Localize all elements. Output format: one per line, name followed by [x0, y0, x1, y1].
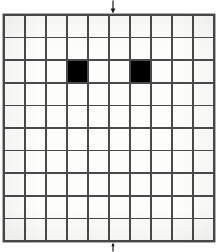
cell-grid — [3, 14, 215, 242]
grid-cell — [68, 151, 87, 172]
grid-cell — [194, 151, 213, 172]
grid-cell — [173, 151, 192, 172]
grid-cell — [26, 219, 45, 240]
grid-cell — [173, 84, 192, 105]
grid-cell — [89, 151, 108, 172]
grid-cell — [152, 197, 171, 218]
grid-cell — [89, 106, 108, 127]
grid-cell — [26, 84, 45, 105]
grid-cell — [89, 16, 108, 37]
grid-cell — [173, 174, 192, 195]
grid-cell — [68, 84, 87, 105]
grid-cell — [5, 106, 24, 127]
grid-cell — [152, 129, 171, 150]
grid-cell — [26, 106, 45, 127]
grid-cell — [26, 61, 45, 82]
grid-cell — [89, 38, 108, 59]
grid-cell — [47, 151, 66, 172]
grid-cell — [5, 151, 24, 172]
grid-container — [3, 14, 215, 242]
grid-cell — [152, 84, 171, 105]
grid-cell — [5, 38, 24, 59]
grid-cell — [173, 106, 192, 127]
grid-cell — [152, 38, 171, 59]
grid-cell — [194, 174, 213, 195]
grid-figure — [0, 0, 223, 252]
grid-cell — [131, 16, 150, 37]
grid-cell — [152, 151, 171, 172]
grid-cell — [173, 219, 192, 240]
grid-cell — [131, 38, 150, 59]
down-arrow-icon — [108, 0, 118, 14]
grid-cell — [68, 174, 87, 195]
grid-cell — [152, 106, 171, 127]
grid-cell — [47, 197, 66, 218]
grid-cell — [173, 16, 192, 37]
grid-cell — [131, 106, 150, 127]
grid-cell — [131, 151, 150, 172]
grid-cell — [173, 61, 192, 82]
grid-cell — [152, 219, 171, 240]
grid-cell — [110, 129, 129, 150]
grid-cell — [110, 197, 129, 218]
grid-cell — [194, 106, 213, 127]
grid-cell — [194, 129, 213, 150]
grid-cell — [173, 129, 192, 150]
grid-cell — [47, 219, 66, 240]
grid-cell — [110, 151, 129, 172]
grid-cell — [89, 61, 108, 82]
grid-cell — [110, 219, 129, 240]
grid-cell — [173, 197, 192, 218]
grid-cell — [26, 129, 45, 150]
grid-cell — [5, 174, 24, 195]
grid-cell — [194, 16, 213, 37]
grid-cell — [47, 106, 66, 127]
grid-cell — [68, 219, 87, 240]
grid-cell — [26, 174, 45, 195]
grid-cell — [68, 38, 87, 59]
grid-cell — [47, 129, 66, 150]
grid-cell — [194, 61, 213, 82]
grid-cell — [68, 106, 87, 127]
grid-cell — [89, 219, 108, 240]
grid-cell — [47, 174, 66, 195]
grid-cell — [110, 106, 129, 127]
grid-cell — [194, 219, 213, 240]
grid-cell — [5, 219, 24, 240]
grid-cell — [131, 219, 150, 240]
grid-cell — [89, 84, 108, 105]
grid-cell — [131, 197, 150, 218]
grid-cell — [47, 84, 66, 105]
grid-cell — [194, 197, 213, 218]
grid-cell — [89, 174, 108, 195]
grid-cell — [26, 151, 45, 172]
grid-cell — [26, 16, 45, 37]
grid-cell — [5, 197, 24, 218]
grid-cell — [131, 174, 150, 195]
grid-cell — [47, 38, 66, 59]
grid-cell — [68, 16, 87, 37]
grid-cell — [5, 84, 24, 105]
grid-cell — [26, 197, 45, 218]
grid-cell — [47, 16, 66, 37]
grid-cell — [89, 197, 108, 218]
grid-cell — [5, 61, 24, 82]
grid-cell — [110, 174, 129, 195]
grid-cell — [152, 174, 171, 195]
grid-cell — [5, 129, 24, 150]
grid-cell — [47, 61, 66, 82]
grid-cell — [89, 129, 108, 150]
grid-cell — [194, 38, 213, 59]
up-tick-icon — [108, 242, 118, 252]
grid-cell — [110, 16, 129, 37]
grid-cell — [26, 38, 45, 59]
grid-cell-filled — [68, 61, 87, 82]
grid-cell — [152, 16, 171, 37]
grid-cell-filled — [131, 61, 150, 82]
grid-cell — [152, 61, 171, 82]
grid-cell — [194, 84, 213, 105]
grid-cell — [5, 16, 24, 37]
grid-cell — [173, 38, 192, 59]
grid-cell — [131, 84, 150, 105]
grid-cell — [68, 129, 87, 150]
